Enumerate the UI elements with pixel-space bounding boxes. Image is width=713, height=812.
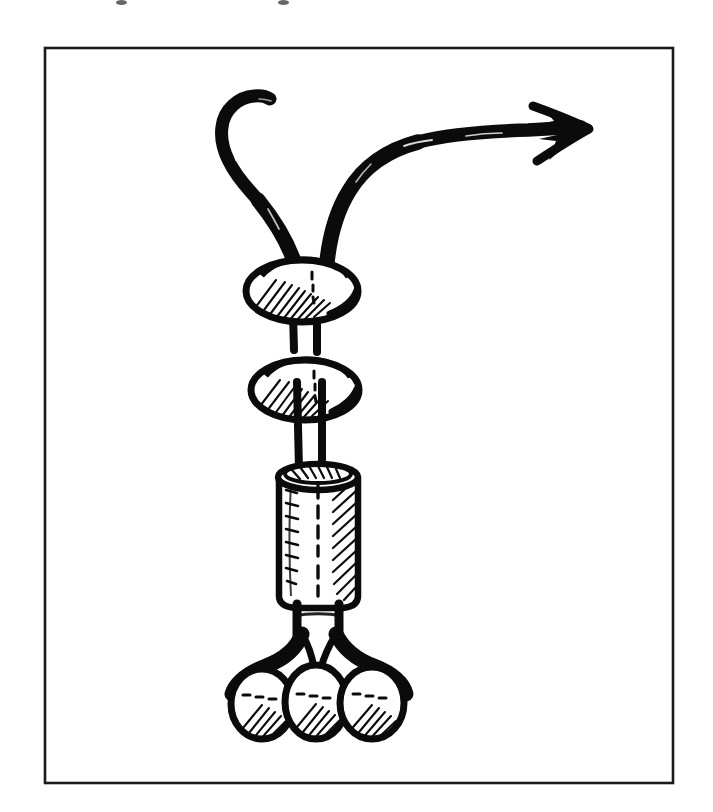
diagram-artboard: [0, 0, 713, 812]
bead-lower: [251, 359, 359, 420]
page-root: [0, 0, 713, 812]
bead-upper: [246, 259, 358, 322]
foot-right: [340, 667, 404, 740]
cylinder: [278, 464, 358, 608]
